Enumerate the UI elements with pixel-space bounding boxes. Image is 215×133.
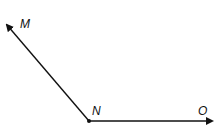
- ray-nm: [7, 25, 89, 121]
- label-o: O: [198, 104, 207, 118]
- vertex-point: [87, 119, 91, 123]
- label-m: M: [20, 17, 30, 31]
- label-n: N: [92, 104, 101, 118]
- angle-figure: M N O: [0, 0, 215, 133]
- angle-diagram: M N O: [0, 0, 215, 133]
